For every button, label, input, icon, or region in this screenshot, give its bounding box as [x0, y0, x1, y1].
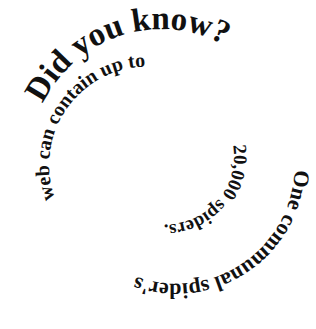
spiral-svg: Did you know? One communal spider's web …	[0, 0, 316, 329]
spiral-text-graphic: Did you know? One communal spider's web …	[0, 0, 316, 329]
fact-segment-3: 20,000 spiders.	[164, 144, 252, 242]
fact-text-3: 20,000 spiders.	[164, 144, 252, 242]
